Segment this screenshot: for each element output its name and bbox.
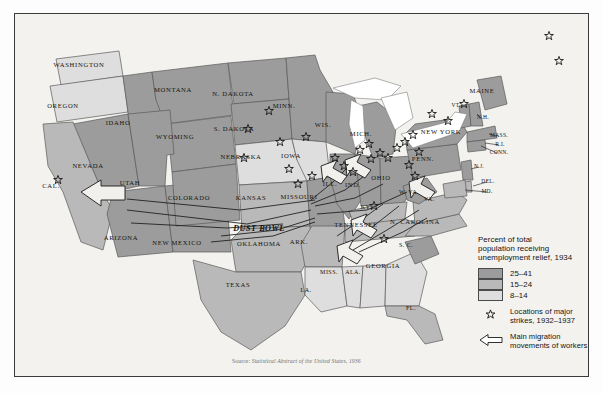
state-label: N.J. <box>474 163 484 169</box>
state-label: ILL. <box>323 180 338 187</box>
state-label: MD. <box>481 188 492 194</box>
legend-class-list: 25–41 15–24 8–14 <box>478 268 598 301</box>
state-label: W. VA. <box>399 189 419 195</box>
state-label: MASS. <box>490 132 508 138</box>
legend-label-mid: 15–24 <box>510 280 532 289</box>
state-label: N. CAROLINA <box>390 218 440 225</box>
legend-swatch-low <box>478 290 503 301</box>
legend-key-strikes-text: Locations of major strikes, 1932–1937 <box>510 308 575 326</box>
legend-class-low: 8–14 <box>478 290 598 301</box>
state-shape-newjersey <box>461 160 473 180</box>
map-figure: WASHINGTONOREGONIDAHOMONTANAWYOMINGNEVAD… <box>0 0 603 393</box>
state-label: N. DAKOTA <box>212 90 254 97</box>
state-label: TEXAS <box>226 281 251 288</box>
state-label: S. C. <box>399 242 413 248</box>
legend-title-line-1: Percent of total <box>478 235 598 244</box>
strike-star-icon <box>478 308 503 321</box>
state-label: TENNESSEE <box>334 221 377 228</box>
legend-class-high: 25–41 <box>478 268 598 279</box>
dust-bowl-annotation: DUST BOWL <box>232 224 285 233</box>
state-label: IDAHO <box>106 119 131 126</box>
state-label: MINN. <box>273 102 296 109</box>
state-label: MONTANA <box>154 86 192 93</box>
migration-arrow-icon <box>478 333 503 347</box>
state-label: MAINE <box>469 87 494 94</box>
map-panel: WASHINGTONOREGONIDAHOMONTANAWYOMINGNEVAD… <box>14 13 589 377</box>
state-shape-alabama <box>360 265 386 308</box>
legend-key-migration-text: Main migration movements of workers <box>510 333 587 351</box>
state-label: UTAH <box>120 179 141 186</box>
map-legend: Percent of total population receiving un… <box>478 235 598 350</box>
legend-label-high: 25–41 <box>510 269 532 278</box>
state-label: IND. <box>345 181 361 188</box>
state-label: WYOMING <box>156 133 194 140</box>
source-attribution: Source: Statistical Abstract of the Unit… <box>232 358 361 364</box>
state-label: NEW YORK <box>421 128 462 135</box>
dust-bowl-label: DUST BOWL <box>232 224 285 233</box>
legend-label-low: 8–14 <box>510 291 528 300</box>
state-label: KY. <box>361 204 372 210</box>
state-label: N.H. <box>477 114 489 120</box>
state-label: OHIO <box>371 174 390 181</box>
state-label: FL. <box>406 305 416 311</box>
state-label: ALA. <box>345 269 361 275</box>
state-label: GEORGIA <box>366 262 401 269</box>
state-label: WIS. <box>315 121 332 128</box>
state-label: WASHINGTON <box>54 61 105 68</box>
state-label: CONN. <box>490 149 509 155</box>
legend-class-mid: 15–24 <box>478 279 598 290</box>
legend-title-line-3: unemployment relief, 1934 <box>478 253 598 262</box>
state-label: ARIZONA <box>104 234 139 241</box>
legend-key-migration-line-2: movements of workers <box>510 342 587 351</box>
state-label: COLORADO <box>168 194 210 201</box>
legend-swatch-mid <box>478 279 503 290</box>
state-label: IOWA <box>281 152 301 159</box>
state-label: VT. <box>451 102 461 108</box>
state-label: MICH. <box>350 130 372 137</box>
legend-title: Percent of total population receiving un… <box>478 235 598 262</box>
state-label: OKLAHOMA <box>237 240 281 247</box>
legend-title-line-2: population receiving <box>478 244 598 253</box>
state-label: LA. <box>301 287 312 293</box>
state-label: DEL. <box>481 178 495 184</box>
state-label: NEW MEXICO <box>152 239 202 246</box>
state-label: VA. <box>424 196 435 202</box>
state-label: OREGON <box>47 102 79 109</box>
state-label: NEVADA <box>72 162 103 169</box>
state-label: ARK. <box>290 238 308 245</box>
legend-key-migration: Main migration movements of workers <box>478 333 598 351</box>
state-label: R.I. <box>495 141 505 147</box>
state-shape-oklahoma <box>231 226 312 272</box>
source-body: Statistical Abstract of the United State… <box>252 358 361 364</box>
legend-swatch-high <box>478 268 503 279</box>
legend-key-strikes-line-2: strikes, 1932–1937 <box>510 317 575 326</box>
state-label: NEBRASKA <box>220 153 261 160</box>
state-label: KANSAS <box>236 194 267 201</box>
legend-key-strikes: Locations of major strikes, 1932–1937 <box>478 308 598 326</box>
state-label: PENN. <box>412 155 434 162</box>
state-shape-northdakota <box>228 58 289 104</box>
state-label: MISSOURI <box>280 193 317 200</box>
source-prefix: Source: <box>232 358 252 364</box>
state-shape-connecticut <box>467 140 486 152</box>
state-label: MISS. <box>320 269 338 275</box>
